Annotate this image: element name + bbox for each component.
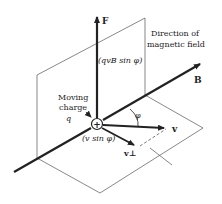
field-direction-label-line2: magnetic field [147, 40, 205, 49]
charge-label-line1: Moving [58, 93, 88, 102]
perp-component-label: (v sin φ) [82, 134, 115, 143]
charge-label-line2: charge [59, 103, 87, 112]
charge-symbol-label: q [66, 114, 71, 123]
field-label: B [194, 75, 202, 85]
projection-dashed-line [140, 129, 166, 146]
charge-sign: + [93, 120, 101, 130]
force-label: F [102, 16, 109, 26]
velocity-label: v [171, 124, 178, 134]
moving-charge: + [92, 119, 103, 130]
magnetic-force-diagram: + F (qvB sin φ) Direction of magnetic fi… [0, 0, 222, 204]
angle-label: φ [135, 111, 141, 120]
magnetic-field-axis [14, 64, 200, 172]
velocity-perp-label: v⊥ [123, 148, 136, 158]
velocity-vector [103, 125, 164, 128]
field-direction-label-line1: Direction of [151, 29, 200, 38]
charge-pointer [86, 112, 91, 117]
force-magnitude-label: (qvB sin φ) [98, 56, 142, 65]
